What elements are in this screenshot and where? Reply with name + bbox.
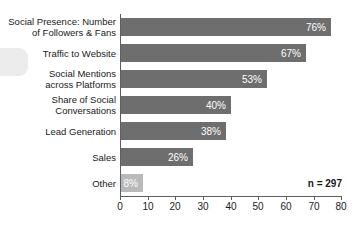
x-axis-tick: [120, 196, 121, 200]
x-axis-tick-label: 50: [252, 201, 263, 212]
bar-value-label: 38%: [201, 126, 221, 137]
table-row: Social Presence: Number of Followers & F…: [0, 14, 356, 40]
table-row: Sales 26%: [0, 144, 356, 170]
x-axis-tick-label: 20: [169, 201, 180, 212]
x-axis-tick-label: 80: [335, 201, 346, 212]
bar: 53%: [121, 70, 267, 88]
y-axis-line: [120, 14, 121, 196]
bar-value-label: 8%: [124, 178, 138, 189]
x-axis-tick: [286, 196, 287, 200]
table-row: Social Mentions across Platforms 53%: [0, 66, 356, 92]
category-label: Lead Generation: [4, 126, 116, 137]
bar: 76%: [121, 18, 331, 36]
x-axis-tick-label: 40: [225, 201, 236, 212]
category-label: Social Mentions across Platforms: [4, 68, 116, 90]
x-axis-tick: [148, 196, 149, 200]
bar-value-label: 26%: [168, 152, 188, 163]
x-axis-tick-label: 70: [308, 201, 319, 212]
category-label: Other: [4, 178, 116, 189]
category-label: Social Presence: Number of Followers & F…: [4, 16, 116, 38]
x-axis-tick-label: 30: [197, 201, 208, 212]
bar-rows: Social Presence: Number of Followers & F…: [0, 14, 356, 196]
category-label: Sales: [4, 152, 116, 163]
bar: 26%: [121, 148, 193, 166]
x-axis-tick-label: 60: [280, 201, 291, 212]
bar: 8%: [121, 174, 143, 192]
table-row: Share of Social Conversations 40%: [0, 92, 356, 118]
x-axis-tick: [175, 196, 176, 200]
x-axis-tick: [341, 196, 342, 200]
x-axis-tick: [314, 196, 315, 200]
x-axis-tick-label: 10: [142, 201, 153, 212]
bar: 40%: [121, 96, 231, 114]
bar: 38%: [121, 122, 226, 140]
x-axis-tick: [258, 196, 259, 200]
bar-value-label: 40%: [206, 100, 226, 111]
bar: 67%: [121, 44, 306, 62]
category-label: Share of Social Conversations: [4, 94, 116, 116]
table-row: Lead Generation 38%: [0, 118, 356, 144]
x-axis-tick: [203, 196, 204, 200]
bar-value-label: 76%: [306, 22, 326, 33]
bar-value-label: 53%: [242, 74, 262, 85]
sample-size-annotation: n = 297: [308, 178, 342, 189]
x-axis-tick-label: 0: [117, 201, 123, 212]
table-row: Other 8%: [0, 170, 356, 196]
category-label: Traffic to Website: [4, 48, 116, 59]
bar-value-label: 67%: [281, 48, 301, 59]
bar-chart: Social Presence: Number of Followers & F…: [0, 0, 356, 232]
x-axis-tick: [231, 196, 232, 200]
plot-area: Social Presence: Number of Followers & F…: [0, 0, 356, 232]
table-row: Traffic to Website 67%: [0, 40, 356, 66]
